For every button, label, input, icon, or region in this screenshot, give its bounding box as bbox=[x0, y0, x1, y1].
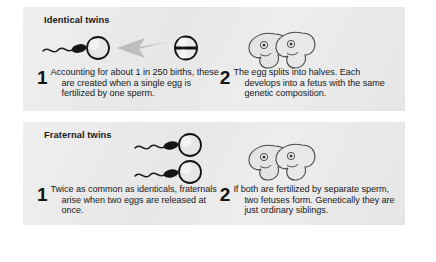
step-text: The egg splits into halves. Each develop… bbox=[233, 67, 397, 99]
split-egg-icon bbox=[175, 37, 197, 60]
sperm-tail-icon bbox=[135, 145, 165, 149]
heading-fraternal-twins: Fraternal twins bbox=[44, 130, 112, 140]
step-text: If both are fertilized by separate sperm… bbox=[233, 184, 397, 216]
sperm-head-icon bbox=[71, 43, 87, 54]
sperm-tail-icon bbox=[135, 173, 165, 177]
steps-fraternal-twins: 1 Twice as common as identicals, fratern… bbox=[37, 184, 397, 216]
egg-highlight bbox=[89, 39, 100, 50]
step-item: 2 The egg splits into halves. Each devel… bbox=[220, 67, 397, 99]
panel-identical-twins: Identical twins bbox=[23, 7, 405, 111]
step-number: 2 bbox=[220, 68, 231, 87]
fetus-icon bbox=[276, 32, 315, 68]
step-item: 2 If both are fertilized by separate spe… bbox=[220, 184, 397, 216]
sperm-tail-icon bbox=[43, 48, 73, 52]
step-text: Twice as common as identicals, fraternal… bbox=[51, 184, 220, 216]
heading-identical-twins: Identical twins bbox=[44, 15, 110, 25]
step-number: 1 bbox=[37, 68, 48, 87]
sperm-egg-splitting-egg-diagram bbox=[41, 31, 221, 71]
fetus-icon bbox=[276, 144, 315, 180]
step-text: Accounting for about 1 in 250 births, th… bbox=[51, 67, 220, 99]
two-sperm-two-eggs-diagram bbox=[133, 132, 213, 190]
sperm-head-icon bbox=[163, 168, 179, 179]
step-item: 1 Twice as common as identicals, fratern… bbox=[37, 184, 220, 216]
sperm-head-icon bbox=[163, 140, 179, 151]
step-number: 1 bbox=[37, 185, 48, 204]
process-arrow-icon bbox=[117, 38, 167, 58]
panel-fraternal-twins: Fraternal twins bbox=[23, 122, 405, 225]
fraternal-fetuses-diagram bbox=[245, 140, 335, 186]
step-number: 2 bbox=[220, 185, 231, 204]
steps-identical-twins: 1 Accounting for about 1 in 250 births, … bbox=[37, 67, 397, 99]
twins-infographic: Identical twins bbox=[0, 0, 436, 262]
step-item: 1 Accounting for about 1 in 250 births, … bbox=[37, 67, 220, 99]
